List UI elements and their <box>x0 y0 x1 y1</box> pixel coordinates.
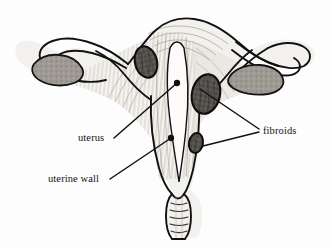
fibroid-diagram-figure: uterus uterine wall fibroids <box>0 0 331 247</box>
label-uterus: uterus <box>78 132 104 143</box>
label-uterine-wall: uterine wall <box>48 173 99 184</box>
right-ovary <box>228 65 283 95</box>
uterus-illustration: uterus uterine wall fibroids <box>0 0 331 247</box>
label-fibroids: fibroids <box>263 125 296 136</box>
